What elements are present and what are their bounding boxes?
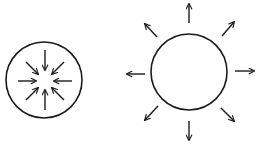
outward-diagram: [127, 4, 254, 140]
diagram-canvas: [0, 0, 257, 149]
outward-arrows-icon: [127, 4, 254, 140]
large-circle: [151, 34, 227, 110]
inward-arrows-icon: [18, 50, 72, 110]
inward-diagram: [6, 42, 82, 118]
small-circle: [6, 42, 82, 118]
